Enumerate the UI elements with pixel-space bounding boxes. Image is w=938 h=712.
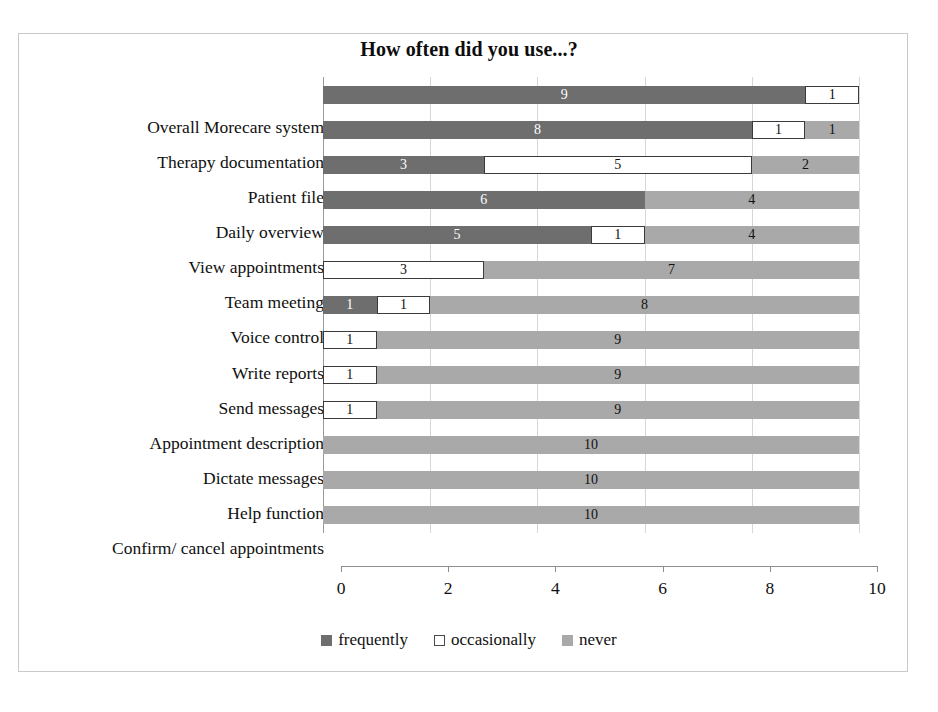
bar-segment-occasionally[interactable]: 1 (805, 86, 859, 104)
y-axis-label: Appointment description (150, 426, 325, 461)
bar-row[interactable]: 10 (323, 463, 859, 498)
plot-area: 918113526451437118191919101010 (323, 77, 859, 533)
bar-segment-frequently[interactable]: 8 (323, 121, 752, 139)
gridline-10 (859, 77, 860, 533)
bar-track: 811 (323, 121, 859, 139)
y-axis-label: Team meeting (225, 285, 324, 320)
x-tick-label: 6 (643, 578, 683, 599)
bar-segment-occasionally[interactable]: 1 (377, 296, 431, 314)
bar-row[interactable]: 118 (323, 287, 859, 322)
bar-value-label: 6 (480, 193, 487, 207)
bar-value-label: 5 (454, 228, 461, 242)
bar-value-label: 1 (614, 228, 621, 242)
bar-row[interactable]: 19 (323, 393, 859, 428)
bar-value-label: 7 (668, 263, 675, 277)
bar-value-label: 3 (400, 158, 407, 172)
bar-value-label: 5 (614, 158, 621, 172)
bar-segment-never[interactable]: 7 (484, 261, 859, 279)
y-axis-label: Help function (227, 496, 324, 531)
bar-value-label: 1 (346, 298, 353, 312)
bar-segment-occasionally[interactable]: 1 (323, 401, 377, 419)
legend-item-occasionally[interactable]: occasionally (434, 630, 536, 650)
bar-value-label: 4 (748, 228, 755, 242)
bar-segment-frequently[interactable]: 9 (323, 86, 805, 104)
bar-row[interactable]: 91 (323, 77, 859, 112)
bar-value-label: 9 (614, 368, 621, 382)
bar-track: 37 (323, 261, 859, 279)
bar-segment-never[interactable]: 8 (430, 296, 859, 314)
y-axis-category-labels: Overall Morecare systemTherapy documenta… (0, 110, 334, 566)
bar-value-label: 10 (584, 473, 598, 487)
bar-segment-never[interactable]: 4 (645, 191, 859, 209)
bar-value-label: 8 (641, 298, 648, 312)
bar-segment-never[interactable]: 2 (752, 156, 859, 174)
bar-segment-never[interactable]: 10 (323, 506, 859, 524)
bar-segment-frequently[interactable]: 3 (323, 156, 484, 174)
bar-segment-occasionally[interactable]: 5 (484, 156, 752, 174)
bar-row[interactable]: 811 (323, 112, 859, 147)
bar-segment-never[interactable]: 9 (377, 401, 859, 419)
bar-segment-never[interactable]: 10 (323, 471, 859, 489)
bar-row[interactable]: 10 (323, 498, 859, 533)
bar-segment-never[interactable]: 10 (323, 436, 859, 454)
x-tick-label: 0 (321, 578, 361, 599)
bar-value-label: 1 (346, 333, 353, 347)
bar-value-label: 1 (346, 403, 353, 417)
bar-segment-never[interactable]: 9 (377, 366, 859, 384)
bar-segment-never[interactable]: 9 (377, 331, 859, 349)
chart-legend: frequentlyoccasionallynever (0, 630, 938, 650)
bar-segment-occasionally[interactable]: 1 (323, 331, 377, 349)
legend-item-never[interactable]: never (562, 630, 617, 650)
y-axis-label: Daily overview (216, 215, 324, 250)
x-tick-label: 10 (857, 578, 897, 599)
bar-row[interactable]: 19 (323, 358, 859, 393)
y-axis-label: Dictate messages (203, 461, 324, 496)
bar-segment-frequently[interactable]: 5 (323, 226, 591, 244)
bar-segment-occasionally[interactable]: 1 (323, 366, 377, 384)
bar-value-label: 9 (614, 333, 621, 347)
bar-row[interactable]: 514 (323, 217, 859, 252)
bar-value-label: 2 (802, 158, 809, 172)
legend-swatch-icon (434, 635, 445, 646)
x-tick-label: 2 (428, 578, 468, 599)
x-tick-label: 4 (535, 578, 575, 599)
bar-value-label: 9 (614, 403, 621, 417)
y-axis-label: View appointments (188, 250, 324, 285)
bar-track: 19 (323, 366, 859, 384)
bar-value-label: 1 (829, 123, 836, 137)
bar-segment-occasionally[interactable]: 1 (752, 121, 806, 139)
chart-title: How often did you use...? (0, 38, 938, 61)
bar-row[interactable]: 352 (323, 147, 859, 182)
bar-value-label: 3 (400, 263, 407, 277)
x-tick (448, 566, 449, 572)
bar-segment-frequently[interactable]: 6 (323, 191, 645, 209)
bar-segment-occasionally[interactable]: 1 (591, 226, 645, 244)
bar-track: 19 (323, 401, 859, 419)
x-tick (555, 566, 556, 572)
bar-track: 64 (323, 191, 859, 209)
bar-segment-frequently[interactable]: 1 (323, 296, 377, 314)
bar-track: 352 (323, 156, 859, 174)
bar-value-label: 1 (400, 298, 407, 312)
bar-track: 91 (323, 86, 859, 104)
bar-value-label: 4 (748, 193, 755, 207)
bar-rows: 918113526451437118191919101010 (323, 77, 859, 533)
y-axis-label: Send messages (219, 391, 324, 426)
bar-value-label: 9 (561, 88, 568, 102)
bar-track: 10 (323, 436, 859, 454)
bar-segment-never[interactable]: 1 (805, 121, 859, 139)
bar-value-label: 1 (346, 368, 353, 382)
bar-value-label: 1 (829, 88, 836, 102)
legend-item-frequently[interactable]: frequently (321, 630, 408, 650)
bar-value-label: 10 (584, 508, 598, 522)
y-axis-label: Patient file (248, 180, 324, 215)
y-axis-label: Voice control (231, 320, 324, 355)
bar-row[interactable]: 19 (323, 323, 859, 358)
bar-row[interactable]: 64 (323, 182, 859, 217)
bar-segment-occasionally[interactable]: 3 (323, 261, 484, 279)
bar-row[interactable]: 10 (323, 428, 859, 463)
bar-segment-never[interactable]: 4 (645, 226, 859, 244)
bar-value-label: 8 (534, 123, 541, 137)
bar-row[interactable]: 37 (323, 252, 859, 287)
bar-track: 10 (323, 471, 859, 489)
